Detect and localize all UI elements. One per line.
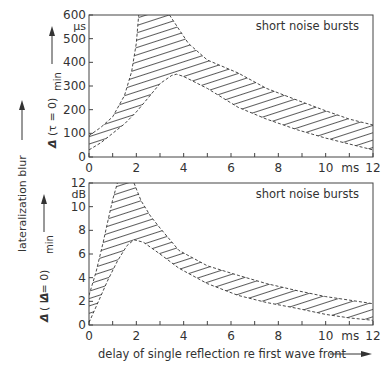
x-tick-label: 0 — [85, 329, 93, 343]
x-tick-label: 2 — [133, 329, 141, 343]
svg-text:Δ: Δ — [46, 139, 59, 149]
xlabel-text: delay of single reflection re first wave… — [98, 347, 347, 361]
x-unit-label: ms — [341, 329, 359, 343]
hatched-band — [89, 183, 373, 323]
y-tick-label: 10 — [71, 200, 86, 214]
bottom-ylabel-subscript: min — [44, 235, 55, 254]
x-tick-label: 6 — [227, 161, 235, 175]
arrow-up-icon — [41, 194, 47, 204]
bottom-ylabel-text: ( L = 0) — [38, 270, 51, 311]
x-tick-label: 0 — [85, 161, 93, 175]
x-tick-label: 12 — [365, 161, 380, 175]
y-tick-label: 0 — [78, 318, 86, 332]
svg-text:Δ: Δ — [38, 313, 51, 323]
x-tick-label: 6 — [227, 329, 235, 343]
x-tick-label: 10 — [318, 329, 333, 343]
y-tick-label: 200 — [63, 103, 86, 117]
shared-ylabel-text: lateralization blur — [16, 155, 29, 252]
y-tick-label: 0 — [78, 150, 86, 164]
x-tick-label: 12 — [365, 329, 380, 343]
shared-ylabel: lateralization blur — [16, 100, 29, 252]
y-unit-label: dB — [71, 188, 86, 201]
y-tick-label: 2 — [78, 294, 86, 308]
x-unit-label: ms — [341, 161, 359, 175]
x-tick-label: 8 — [275, 329, 283, 343]
figure: 024681012ms0100200300400500600µsshort no… — [0, 0, 388, 374]
annotation-label: short noise bursts — [256, 19, 359, 33]
y-tick-label: 100 — [63, 126, 86, 140]
x-tick-label: 4 — [180, 161, 188, 175]
top-plot-time-threshold: 024681012ms0100200300400500600µsshort no… — [63, 8, 381, 175]
bottom-ylabel: Δ ( L = 0) Δ min — [38, 194, 55, 323]
y-tick-label: 6 — [78, 247, 86, 261]
hatched-band — [89, 15, 373, 150]
x-tick-label: 4 — [180, 329, 188, 343]
y-tick-label: 4 — [78, 271, 86, 285]
y-unit-label: µs — [73, 20, 86, 33]
x-tick-label: 2 — [133, 161, 141, 175]
x-tick-label: 10 — [318, 161, 333, 175]
arrow-right-icon — [361, 351, 372, 357]
svg-text:Δ: Δ — [38, 292, 51, 302]
top-ylabel-subscript: min — [52, 72, 63, 91]
top-ylabel: Δ (τ = 0) min — [46, 26, 63, 149]
bottom-plot-level-threshold: 024681012ms024681012dBshort noise bursts — [71, 176, 381, 343]
annotation-label: short noise bursts — [256, 187, 359, 201]
top-ylabel-text: (τ = 0) — [46, 98, 59, 136]
y-tick-label: 8 — [78, 223, 86, 237]
y-tick-label: 500 — [63, 32, 86, 46]
y-tick-label: 400 — [63, 55, 86, 69]
arrow-up-icon — [49, 26, 55, 36]
xlabel: delay of single reflection re first wave… — [98, 347, 372, 361]
x-tick-label: 8 — [275, 161, 283, 175]
arrow-up-icon — [19, 100, 25, 110]
y-tick-label: 300 — [63, 79, 86, 93]
